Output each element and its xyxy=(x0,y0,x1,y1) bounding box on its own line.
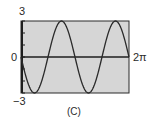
y-max-label: 3 xyxy=(19,6,25,17)
y-min-label: −3 xyxy=(13,96,26,107)
y-zero-label: 0 xyxy=(11,52,17,63)
x-max-label: 2π xyxy=(133,52,147,63)
caption-label: (C) xyxy=(67,106,81,117)
